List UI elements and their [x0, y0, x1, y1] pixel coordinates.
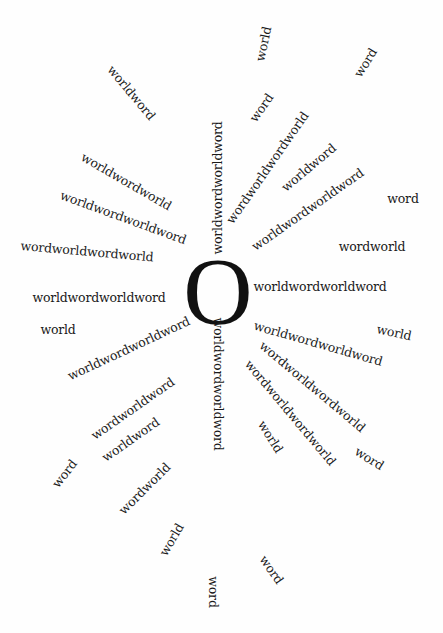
- ray-word: word: [50, 458, 79, 490]
- ray-word: word: [352, 46, 379, 79]
- ray-word: wordworld: [117, 461, 173, 517]
- ray-word: word: [257, 554, 285, 587]
- ray-word: wordworld: [339, 241, 406, 254]
- ray-word: worldwordworldword: [253, 281, 386, 294]
- ray-word: world: [255, 419, 284, 455]
- ray-word: wordworldwordworld: [20, 240, 154, 264]
- ray-word: world: [158, 522, 186, 559]
- ray-word: world: [40, 324, 75, 337]
- typographic-sunburst-artwork: O worldwordworldwordworldwordworldwordwo…: [0, 0, 443, 633]
- ray-word: word: [248, 92, 276, 125]
- ray-word: world: [254, 25, 274, 62]
- ray-word: world: [375, 323, 412, 343]
- ray-word: worldwordworldword: [66, 315, 192, 383]
- ray-word: worldwordworldword: [32, 292, 165, 305]
- ray-word: worldword: [105, 63, 157, 122]
- ray-word: word: [387, 193, 418, 206]
- ray-word: worldwordworldword: [212, 317, 225, 450]
- ray-word: word: [352, 445, 385, 472]
- ray-word: word: [207, 576, 220, 607]
- ray-word: worldwordworldword: [212, 121, 225, 254]
